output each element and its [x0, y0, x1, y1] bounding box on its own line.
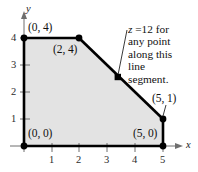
x-tick-label-5: 5	[160, 155, 165, 166]
x-tick-label-4: 4	[132, 155, 137, 166]
x-axis-label: x	[186, 140, 191, 151]
y-tick-label-3: 3	[11, 60, 16, 71]
figure-container: y x 1 2 3 4 5 1 2 3 4 (0, 4) (2, 4) (5, …	[0, 0, 198, 172]
vertex-dot-5-0	[160, 143, 167, 150]
vertex-dot-5-1	[160, 116, 167, 123]
point-label-2-4: (2, 4)	[53, 44, 77, 56]
point-label-5-0: (5, 0)	[133, 128, 157, 140]
x-tick-label-1: 1	[49, 155, 54, 166]
y-tick-label-1: 1	[11, 114, 16, 125]
y-tick-label-2: 2	[11, 87, 16, 98]
annotation-line-2: any point	[128, 35, 198, 47]
x-axis-arrowhead	[175, 143, 183, 149]
annotation-line-5: segment.	[128, 73, 198, 85]
y-tick-label-4: 4	[11, 33, 16, 44]
x-tick-label-3: 3	[104, 155, 109, 166]
annotation-text-block: z =12 for any point along this line segm…	[128, 23, 198, 85]
point-label-5-1: (5, 1)	[152, 93, 176, 105]
point-5-1-leader-line	[163, 105, 166, 116]
annotation-leader-line	[118, 30, 127, 75]
x-tick-label-2: 2	[76, 155, 81, 166]
vertex-dot-2-4	[76, 35, 83, 42]
vertex-dot-origin	[21, 143, 28, 150]
point-label-0-4: (0, 4)	[28, 22, 52, 34]
y-axis-label: y	[26, 4, 31, 15]
point-label-0-0: (0, 0)	[28, 128, 52, 140]
vertex-dot-0-4	[21, 35, 28, 42]
segment-marker-square	[115, 74, 121, 80]
annotation-line-1-rest: =12 for	[132, 23, 169, 35]
annotation-line-1: z =12 for	[128, 23, 198, 35]
annotation-line-4: line	[128, 60, 198, 72]
annotation-line-3: along this	[128, 48, 198, 60]
